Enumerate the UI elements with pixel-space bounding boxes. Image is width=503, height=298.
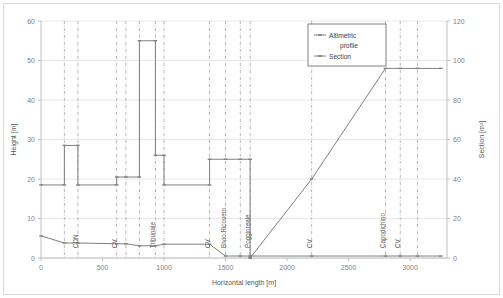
station-label: Capodichino — [379, 212, 387, 248]
legend-label-altimetric-profile-line1: Altimetric — [329, 32, 357, 39]
station-label: Tribunale — [149, 221, 156, 248]
chart-canvas: 0102030405060020406080100120050010001500… — [0, 0, 503, 298]
y-tick-label-left: 60 — [27, 18, 35, 25]
y-tick-label-left: 0 — [31, 255, 35, 262]
y-tick-label-right: 100 — [453, 57, 465, 64]
x-tick-label: 2000 — [279, 264, 295, 271]
station-label: CV — [111, 238, 118, 248]
altimetric-section-chart: 0102030405060020406080100120050010001500… — [0, 0, 503, 298]
station-label: Poggioreale — [244, 214, 252, 248]
y-tick-label-right: 0 — [453, 255, 457, 262]
y-tick-label-left: 40 — [27, 97, 35, 104]
x-axis-title: Horizontal length [m] — [212, 279, 276, 287]
x-tick-label: 1000 — [156, 264, 172, 271]
y-tick-label-right: 120 — [453, 18, 465, 25]
y-tick-label-right: 40 — [453, 176, 461, 183]
x-tick-label: 0 — [39, 264, 43, 271]
y-tick-label-left: 20 — [27, 176, 35, 183]
y-tick-label-left: 50 — [27, 57, 35, 64]
x-tick-label: 3000 — [402, 264, 418, 271]
x-tick-label: 500 — [97, 264, 109, 271]
x-tick-label: 1500 — [218, 264, 234, 271]
station-label: CV — [204, 238, 211, 248]
x-tick-label: 2500 — [341, 264, 357, 271]
y-tick-label-right: 20 — [453, 215, 461, 222]
legend-label-altimetric-profile-line2: profile — [340, 42, 358, 50]
station-label: CV — [394, 238, 401, 248]
y-tick-label-left: 30 — [27, 136, 35, 143]
y-tick-label-right: 80 — [453, 97, 461, 104]
station-label: CV — [306, 238, 313, 248]
y-axis-title-right: Section [m²] — [478, 121, 486, 158]
station-label: CDN — [72, 234, 79, 248]
y-axis-title-left: Height [m] — [10, 123, 18, 155]
y-tick-label-right: 60 — [453, 136, 461, 143]
y-tick-label-left: 10 — [27, 215, 35, 222]
station-label: Bivio Ricovero — [220, 207, 227, 248]
legend-label-section: Section — [329, 53, 351, 60]
